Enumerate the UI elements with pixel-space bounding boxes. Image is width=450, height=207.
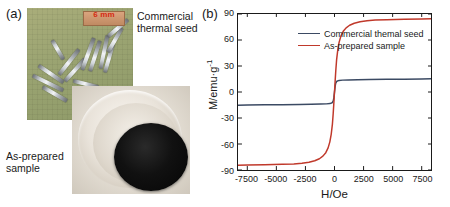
legend-item[interactable]: Commercial themal seed: [298, 28, 424, 39]
panel-a-photographs: (a) 6 mm Commercial: [0, 0, 200, 207]
legend-item[interactable]: As-prepared sample: [298, 40, 424, 51]
y-tick-label: 90: [208, 8, 234, 18]
scale-bar-label: 6 mm: [84, 10, 124, 19]
legend-label: As-prepared sample: [324, 41, 405, 51]
y-tick-label: -60: [208, 140, 234, 150]
x-tick-label: 7500: [403, 174, 443, 184]
legend-color-swatch: [298, 33, 320, 34]
panel-a-tag: (a): [6, 6, 22, 21]
x-axis-title: H/Oe: [237, 188, 432, 200]
panel-b-magnetization-chart: (b) 9060300-30-60-90 M/emu·g-1 Commercia…: [200, 0, 450, 207]
x-axis-tick-labels: -7500-5000-25000250050007500: [237, 174, 432, 188]
y-axis-title: M/emu·g-1: [205, 50, 219, 120]
dish-rim: [78, 90, 182, 188]
label-as-prepared-sample: As-prepared sample: [6, 150, 72, 174]
chart-legend: Commercial themal seedAs-prepared sample: [298, 28, 424, 52]
y-tick-label: 60: [208, 34, 234, 44]
black-powder: [114, 123, 188, 191]
dish-inner: [93, 103, 179, 183]
legend-label: Commercial themal seed: [324, 29, 424, 39]
legend-color-swatch: [298, 45, 320, 46]
label-commercial-thermal-seed: Commercial thermal seed: [137, 10, 199, 34]
plot-area: Commercial themal seedAs-prepared sample: [237, 13, 432, 171]
figure-root: (a) 6 mm Commercial: [0, 0, 450, 207]
as-prepared-sample-photograph: [72, 86, 190, 194]
